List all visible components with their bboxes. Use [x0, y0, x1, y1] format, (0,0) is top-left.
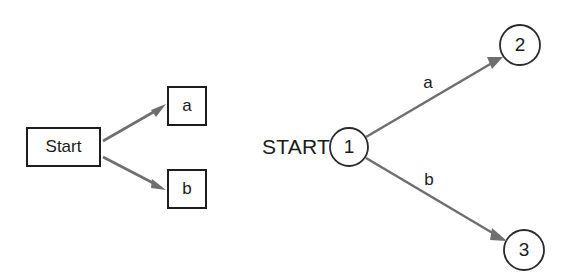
transition-1-to-2-head	[487, 57, 503, 69]
state-node-3-label: 3	[519, 239, 530, 260]
transition-1-to-2: a	[366, 57, 503, 137]
arrow-start-to-b	[103, 157, 166, 190]
state-notation-diagram: START 1 2 3 a	[262, 25, 544, 270]
arrow-start-to-a-head	[151, 104, 166, 117]
start-box-label: Start	[46, 137, 82, 156]
box-b[interactable]: b	[168, 170, 206, 208]
transition-1-to-3-label: b	[424, 170, 433, 189]
state-node-2-label: 2	[515, 34, 526, 55]
arrow-start-to-a	[103, 104, 166, 141]
start-box[interactable]: Start	[27, 128, 100, 166]
diagram-root: Start a b	[0, 0, 562, 280]
start-label: START	[262, 135, 330, 158]
box-a[interactable]: a	[168, 87, 206, 125]
state-node-1-label: 1	[344, 136, 355, 157]
arrow-start-to-a-line	[103, 110, 157, 141]
transition-1-to-2-label: a	[423, 73, 433, 92]
box-b-label: b	[182, 179, 191, 198]
state-node-1[interactable]: 1	[330, 128, 368, 166]
box-notation-diagram: Start a b	[27, 87, 206, 208]
transition-1-to-3: b	[366, 158, 507, 241]
arrow-start-to-b-head	[151, 179, 166, 190]
diagram-canvas: Start a b	[0, 0, 562, 280]
box-a-label: a	[182, 96, 192, 115]
transition-1-to-3-head	[490, 228, 507, 241]
state-node-3[interactable]: 3	[504, 230, 544, 270]
state-node-2[interactable]: 2	[500, 25, 540, 65]
arrow-start-to-b-line	[103, 157, 157, 185]
